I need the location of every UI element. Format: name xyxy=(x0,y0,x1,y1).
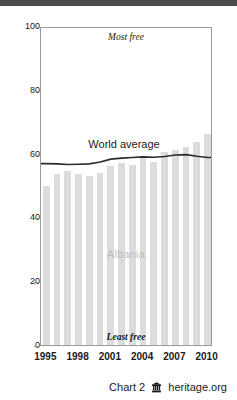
source-label: heritage.org xyxy=(168,381,227,393)
heritage-building-icon xyxy=(151,382,162,393)
most-free-label: Most free xyxy=(108,32,144,42)
chart-footer: Chart 2 heritage.org xyxy=(0,380,237,393)
plot-area: Most free Least free xyxy=(40,27,212,346)
chart-canvas: 020406080100 Most free Least free World … xyxy=(0,0,237,400)
x-tick-label: 2004 xyxy=(131,351,153,362)
x-tick-label: 2007 xyxy=(163,351,185,362)
x-tick-label: 1998 xyxy=(67,351,89,362)
chart-number-label: Chart 2 xyxy=(109,381,145,393)
y-axis: 020406080100 xyxy=(0,0,40,400)
x-tick-label: 1995 xyxy=(34,351,56,362)
x-axis: 199519982001200420072010 xyxy=(0,348,237,368)
x-tick-label: 2001 xyxy=(99,351,121,362)
world-average-line xyxy=(41,28,212,346)
albania-series-label: Albania xyxy=(107,248,145,260)
world-average-label: World average xyxy=(88,138,159,150)
least-free-label: Least free xyxy=(107,332,146,342)
x-tick-label: 2010 xyxy=(196,351,218,362)
y-tick-mark xyxy=(34,346,40,347)
